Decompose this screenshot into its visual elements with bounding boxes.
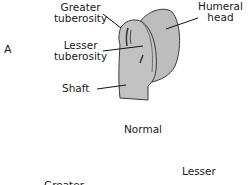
shaft-label: Shaft: [62, 83, 89, 94]
next-panel-greater-label: Greater: [44, 180, 84, 185]
next-panel-lesser-label: Lesser: [182, 166, 216, 177]
humerus-illustration: [0, 0, 250, 185]
shaft-shape: [119, 20, 157, 100]
lesser-tuberosity-label: Lesser tuberosity: [54, 40, 107, 62]
humeral-head-label: Humeral head: [198, 1, 243, 23]
panel-letter: A: [4, 44, 12, 55]
caption-normal: Normal: [124, 124, 162, 135]
greater-tuberosity-label: Greater tuberosity: [54, 2, 107, 24]
